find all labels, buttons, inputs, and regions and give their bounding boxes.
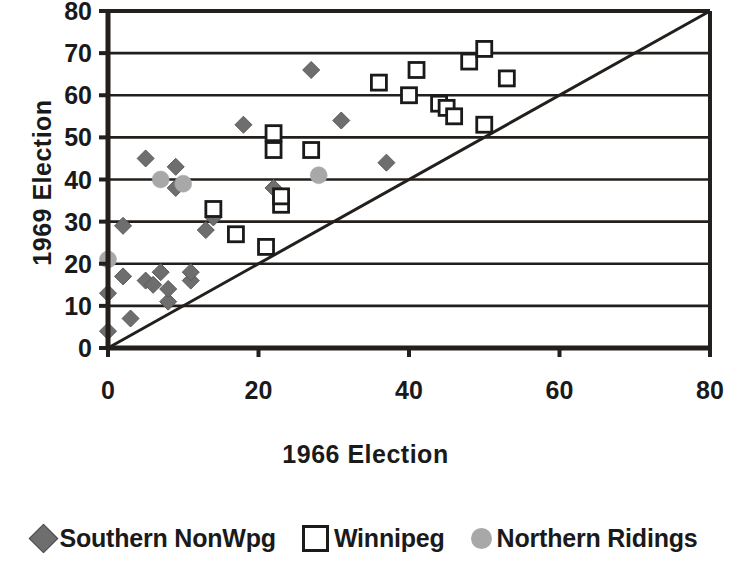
y-tick-label: 50 bbox=[30, 125, 92, 150]
data-point bbox=[137, 150, 154, 167]
x-tick-label: 20 bbox=[224, 378, 294, 403]
data-point bbox=[160, 281, 177, 298]
data-point bbox=[447, 109, 462, 124]
legend-item-southern-nonwpg[interactable]: Southern NonWpg bbox=[33, 524, 275, 553]
y-axis-tick-labels: 01020304050607080 bbox=[30, 0, 92, 360]
x-tick-label: 40 bbox=[374, 378, 444, 403]
plot-svg bbox=[108, 11, 710, 348]
data-point bbox=[402, 88, 417, 103]
y-tick-label: 40 bbox=[30, 168, 92, 193]
data-point bbox=[115, 268, 132, 285]
data-point bbox=[274, 189, 289, 204]
data-point bbox=[235, 116, 252, 133]
data-point bbox=[304, 143, 319, 158]
y-tick-label: 20 bbox=[30, 252, 92, 277]
legend-label: Northern Ridings bbox=[497, 524, 698, 553]
legend-item-northern-ridings[interactable]: Northern Ridings bbox=[471, 524, 698, 553]
legend-label: Southern NonWpg bbox=[59, 524, 275, 553]
data-point bbox=[259, 239, 274, 254]
circle-icon bbox=[471, 528, 492, 549]
data-point bbox=[228, 227, 243, 242]
legend-item-winnipeg[interactable]: Winnipeg bbox=[302, 524, 445, 553]
y-tick-label: 60 bbox=[30, 83, 92, 108]
gridlines bbox=[108, 11, 710, 306]
data-point bbox=[409, 62, 424, 77]
scatter-chart-figure: 1969 Election 01020304050607080 02040608… bbox=[0, 0, 731, 581]
y-tick-label: 70 bbox=[30, 41, 92, 66]
x-axis-tick-labels: 020406080 bbox=[0, 378, 731, 412]
y-tick-label: 80 bbox=[30, 0, 92, 24]
data-point bbox=[499, 71, 514, 86]
y-tick-label: 0 bbox=[30, 336, 92, 361]
data-point bbox=[266, 143, 281, 158]
data-point bbox=[206, 201, 221, 216]
data-point bbox=[167, 158, 184, 175]
data-point bbox=[378, 154, 395, 171]
data-point bbox=[371, 75, 386, 90]
data-point bbox=[152, 171, 169, 188]
chart-legend: Southern NonWpgWinnipegNorthern Ridings bbox=[0, 516, 731, 560]
data-point bbox=[175, 175, 192, 192]
data-point bbox=[462, 54, 477, 69]
square-icon bbox=[302, 525, 329, 552]
y-tick-label: 10 bbox=[30, 294, 92, 319]
diamond-icon bbox=[29, 523, 59, 553]
x-tick-label: 60 bbox=[525, 378, 595, 403]
plot-area bbox=[108, 11, 710, 348]
data-point bbox=[303, 61, 320, 78]
series-southern-nonwpg bbox=[100, 61, 395, 339]
x-tick-label: 0 bbox=[73, 378, 143, 403]
data-point bbox=[333, 112, 350, 129]
data-point bbox=[477, 41, 492, 56]
x-tick-label: 80 bbox=[675, 378, 731, 403]
legend-label: Winnipeg bbox=[334, 524, 445, 553]
data-point bbox=[310, 167, 327, 184]
data-point bbox=[115, 217, 132, 234]
data-markers bbox=[100, 41, 515, 339]
data-point bbox=[122, 310, 139, 327]
data-point bbox=[477, 117, 492, 132]
y-tick-label: 30 bbox=[30, 210, 92, 235]
x-axis-title: 1966 Election bbox=[0, 440, 731, 469]
data-point bbox=[266, 126, 281, 141]
